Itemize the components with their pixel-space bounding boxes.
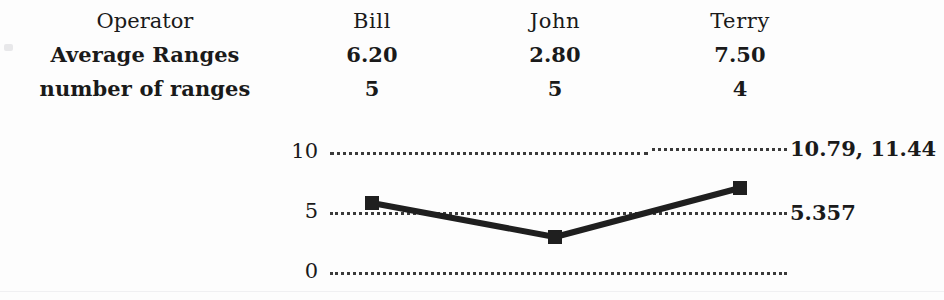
page-bottom-rule <box>0 291 944 292</box>
y-axis-tick-0: 0 <box>272 261 318 282</box>
centerline-annotation-label: 5.357 <box>790 202 856 223</box>
y-axis-tick-10: 10 <box>272 141 318 162</box>
lower-control-limit-line <box>330 272 787 275</box>
center-line <box>330 212 787 215</box>
upper-control-limit-line-segment-2 <box>652 148 787 151</box>
data-point-marker-bill <box>365 196 379 210</box>
ucl-annotation-label: 10.79, 11.44 <box>790 138 936 159</box>
data-point-marker-john <box>548 230 562 244</box>
chart-page: Operator Bill John Terry Average Ranges … <box>0 0 944 300</box>
y-axis-tick-5: 5 <box>272 201 318 222</box>
upper-control-limit-line-segment-1 <box>330 152 648 155</box>
range-control-chart: 10 5 0 10.79, 11.44 5.357 <box>0 0 944 300</box>
data-point-marker-terry <box>733 181 747 195</box>
scan-artifact <box>4 44 13 51</box>
